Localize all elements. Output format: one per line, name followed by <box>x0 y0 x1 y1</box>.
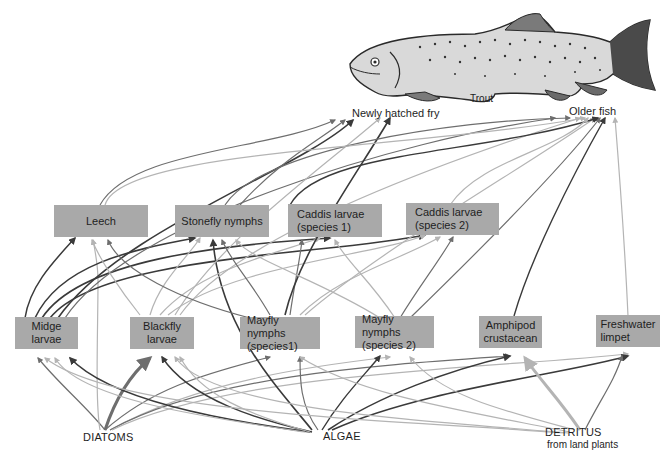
node-mayfly2-line1: Mayfly nymphs <box>362 313 430 339</box>
trout-illustration-icon <box>350 14 655 102</box>
arrow-blackfly-to-stonefly <box>150 238 200 315</box>
node-blackfly-line1: Blackfly <box>143 320 181 333</box>
arrow-stonefly-to-older <box>225 118 570 205</box>
newly-hatched-fry-label: Newly hatched fry <box>352 107 439 119</box>
arrow-limpet-to-older <box>615 118 628 316</box>
arrow-diatoms-to-midge <box>38 358 105 430</box>
arrow-leech-to-older <box>105 118 585 205</box>
node-midge-larvae: Midge larvae <box>15 317 78 349</box>
node-freshwater-limpet: Freshwater limpet <box>596 315 660 347</box>
arrow-diatoms-to-leech <box>93 240 100 430</box>
node-caddis1-line1: Caddis larvae <box>297 208 364 221</box>
node-caddis-larvae-2: Caddis larvae (species 2) <box>406 203 499 235</box>
food-web-diagram: Trout Newly hatched fry Older fish Leech… <box>0 0 671 460</box>
node-caddis2-line1: Caddis larvae <box>415 206 482 219</box>
algae-label: ALGAE <box>323 430 361 442</box>
arrow-caddis1-to-older <box>290 118 598 205</box>
node-caddis2-line2: (species 2) <box>415 219 482 232</box>
node-mayfly1-line2: (species1) <box>247 340 316 353</box>
node-mayfly-nymphs-1: Mayfly nymphs (species1) <box>240 317 320 349</box>
node-stonefly-label: Stonefly nymphs <box>181 215 262 228</box>
arrow-detritus-to-mayfly1 <box>300 357 570 432</box>
node-amphipod-line1: Amphipod <box>484 319 538 332</box>
node-stonefly-nymphs: Stonefly nymphs <box>175 205 269 237</box>
arrow-algae-to-limpet <box>332 356 628 430</box>
arrow-amphipod-to-older <box>514 118 605 316</box>
diatoms-label: DIATOMS <box>83 431 134 443</box>
node-amphipod-crustacean: Amphipod crustacean <box>479 316 542 348</box>
arrow-detritus-to-mayfly2 <box>410 357 575 430</box>
node-blackfly-line2: larvae <box>143 333 181 346</box>
node-caddis1-line2: (species 1) <box>297 221 364 234</box>
arrow-mayfly2-to-caddis2 <box>400 237 453 318</box>
node-mayfly2-line2: (species 2) <box>362 339 430 352</box>
arrow-algae-to-blackfly <box>180 357 310 432</box>
node-leech: Leech <box>54 205 148 237</box>
arrow-mayfly2-to-caddis1 <box>335 240 395 318</box>
node-midge-line2: larvae <box>32 333 62 346</box>
node-midge-line1: Midge <box>32 320 62 333</box>
node-limpet-line1: Freshwater <box>600 318 655 331</box>
arrow-midge-to-stonefly <box>35 238 195 318</box>
detritus-label: DETRITUS <box>545 426 602 438</box>
trout-label: Trout <box>470 93 493 104</box>
node-blackfly-larvae: Blackfly larvae <box>130 317 194 349</box>
node-mayfly1-line1: Mayfly nymphs <box>247 314 316 340</box>
node-mayfly-nymphs-2: Mayfly nymphs (species 2) <box>355 316 434 348</box>
node-amphipod-line2: crustacean <box>484 332 538 345</box>
older-fish-label: Older fish <box>569 105 616 117</box>
node-limpet-line2: limpet <box>600 331 655 344</box>
arrow-mayfly1-to-stonefly <box>222 240 270 315</box>
arrow-detritus-to-limpet <box>585 356 622 430</box>
detritus-sublabel: from land plants <box>547 439 618 450</box>
arrow-caddis2-to-older <box>450 118 588 205</box>
node-caddis-larvae-1: Caddis larvae (species 1) <box>288 204 382 237</box>
node-leech-label: Leech <box>86 215 116 228</box>
